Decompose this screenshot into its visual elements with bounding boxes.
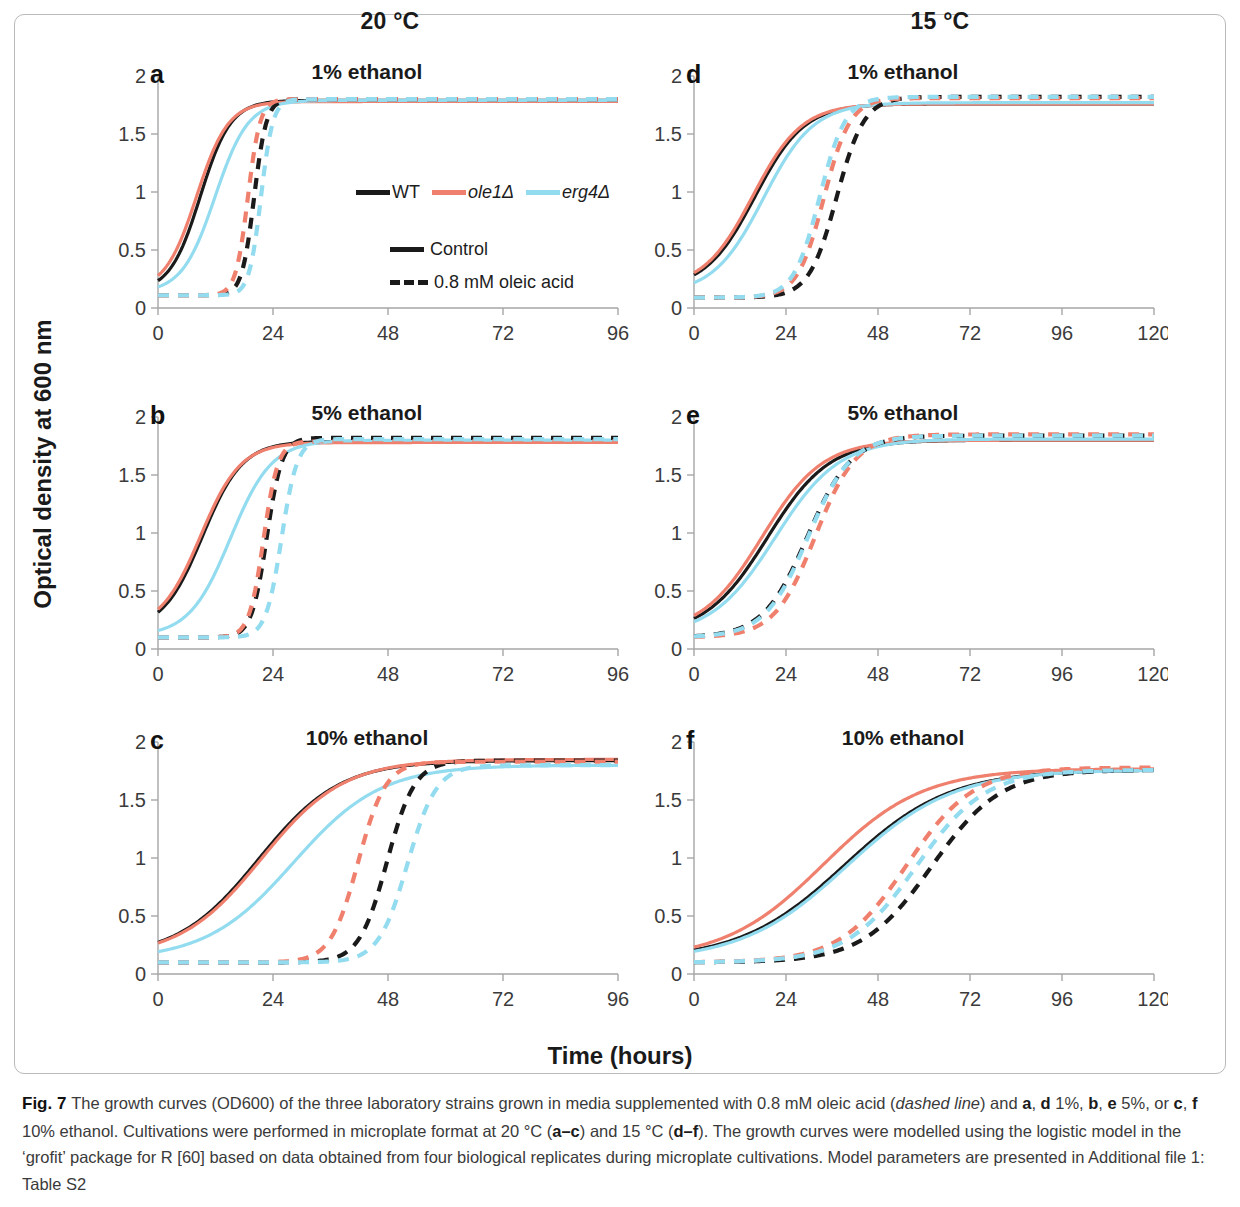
legend-line-swatch — [432, 190, 466, 195]
y-tick-label: 0 — [135, 638, 146, 660]
curve-b-wt-control — [158, 441, 618, 612]
x-tick-label: 48 — [867, 663, 889, 685]
panel-c-plot: 00.511.52024487296 — [112, 718, 632, 1038]
panel-letter-b: b — [150, 401, 165, 430]
curve-f-erg4-0-8-mm-oleic-acid — [694, 770, 1154, 962]
caption-text-run: b — [1088, 1094, 1098, 1112]
chart-legend: WTole1Δerg4Δ Control0.8 mM oleic acid — [356, 182, 656, 312]
caption-text-run: The growth curves (OD600) of the three l… — [71, 1094, 895, 1112]
y-tick-label: 1 — [671, 847, 682, 869]
x-tick-label: 96 — [607, 663, 629, 685]
legend-line-swatch — [356, 190, 390, 195]
curve-f-wt-0-8-mm-oleic-acid — [694, 770, 1154, 962]
dashed-line-swatch — [390, 280, 428, 285]
y-tick-label: 1.5 — [654, 123, 682, 145]
legend-item-ole1: ole1Δ — [432, 182, 514, 203]
panel-letter-d: d — [686, 60, 701, 89]
x-tick-label: 120 — [1137, 663, 1168, 685]
curve-b-ole1-control — [158, 443, 618, 610]
y-tick-label: 1.5 — [118, 123, 146, 145]
curve-e-wt-control — [694, 440, 1154, 618]
x-tick-label: 96 — [607, 988, 629, 1010]
y-tick-label: 0 — [671, 638, 682, 660]
curve-d-erg4-control — [694, 103, 1154, 283]
x-tick-label: 48 — [377, 322, 399, 344]
panel-d: 00.511.52024487296120d1% ethanol — [648, 52, 1168, 372]
x-axis-title: Time (hours) — [0, 1042, 1240, 1070]
caption-text-run: 10% ethanol. Cultivations were performed… — [22, 1122, 552, 1140]
panel-letter-c: c — [150, 726, 164, 755]
x-tick-label: 96 — [1051, 988, 1073, 1010]
legend-style-solid: Control — [390, 239, 656, 260]
y-tick-label: 2 — [671, 65, 682, 87]
caption-text-run: a–c — [552, 1122, 580, 1140]
x-tick-label: 48 — [377, 988, 399, 1010]
axis-lines — [694, 76, 1154, 308]
caption-text-run: f — [1192, 1094, 1198, 1112]
x-tick-label: 24 — [262, 663, 284, 685]
curve-f-ole1-0-8-mm-oleic-acid — [694, 768, 1154, 962]
y-tick-label: 1 — [671, 522, 682, 544]
panel-b: 00.511.52024487296b5% ethanol — [112, 393, 632, 713]
legend-line-swatch — [526, 190, 560, 195]
y-tick-label: 0.5 — [118, 905, 146, 927]
y-tick-label: 0.5 — [118, 239, 146, 261]
panel-title-d: 1% ethanol — [738, 60, 1068, 84]
y-tick-label: 1.5 — [654, 789, 682, 811]
y-tick-label: 0 — [671, 297, 682, 319]
caption-text-run: 5%, or — [1117, 1094, 1174, 1112]
x-tick-label: 72 — [959, 988, 981, 1010]
y-tick-label: 1.5 — [118, 464, 146, 486]
column-heading-20c: 20 °C — [210, 8, 570, 35]
y-tick-label: 0 — [135, 963, 146, 985]
panel-d-plot: 00.511.52024487296120 — [648, 52, 1168, 372]
x-tick-label: 24 — [262, 322, 284, 344]
caption-text-run: dashed line — [896, 1094, 980, 1112]
column-heading-15c: 15 °C — [760, 8, 1120, 35]
caption-figure-number: Fig. 7 — [22, 1094, 71, 1113]
curve-c-wt-0-8-mm-oleic-acid — [158, 761, 618, 963]
y-tick-label: 1.5 — [118, 789, 146, 811]
x-tick-label: 72 — [492, 322, 514, 344]
panel-title-c: 10% ethanol — [202, 726, 532, 750]
caption-text-run: 1%, — [1051, 1094, 1089, 1112]
curve-b-erg4-control — [158, 440, 618, 630]
curve-e-erg4-control — [694, 439, 1154, 622]
curve-e-ole1-control — [694, 440, 1154, 615]
y-tick-label: 2 — [135, 731, 146, 753]
y-tick-label: 1 — [671, 181, 682, 203]
figure-caption: Fig. 7 The growth curves (OD600) of the … — [22, 1090, 1212, 1198]
panel-f-plot: 00.511.52024487296120 — [648, 718, 1168, 1038]
y-tick-label: 0.5 — [654, 239, 682, 261]
caption-text-run: c — [1174, 1094, 1183, 1112]
x-tick-label: 72 — [959, 663, 981, 685]
legend-style-dashed: 0.8 mM oleic acid — [390, 272, 656, 293]
curve-b-ole1-0-8-mm-oleic-acid — [158, 441, 618, 637]
legend-style-label: Control — [430, 239, 488, 260]
x-tick-label: 48 — [377, 663, 399, 685]
x-tick-label: 0 — [688, 322, 699, 344]
x-tick-label: 48 — [867, 322, 889, 344]
x-tick-label: 120 — [1137, 988, 1168, 1010]
panel-letter-f: f — [686, 726, 694, 755]
x-tick-label: 72 — [959, 322, 981, 344]
panel-e: 00.511.52024487296120e5% ethanol — [648, 393, 1168, 713]
legend-label: ole1Δ — [468, 182, 514, 203]
x-tick-label: 96 — [607, 322, 629, 344]
legend-strain-row: WTole1Δerg4Δ — [356, 182, 656, 203]
panel-letter-e: e — [686, 401, 700, 430]
panel-title-f: 10% ethanol — [738, 726, 1068, 750]
x-tick-label: 24 — [775, 988, 797, 1010]
y-tick-label: 0 — [671, 963, 682, 985]
caption-text-run: ) and — [980, 1094, 1022, 1112]
panel-e-plot: 00.511.52024487296120 — [648, 393, 1168, 713]
y-tick-label: 1 — [135, 522, 146, 544]
legend-label: erg4Δ — [562, 182, 610, 203]
panel-title-b: 5% ethanol — [202, 401, 532, 425]
caption-text-run: ) and 15 °C ( — [580, 1122, 674, 1140]
legend-style-rows: Control0.8 mM oleic acid — [356, 239, 656, 293]
legend-item-wt: WT — [356, 182, 420, 203]
x-tick-label: 0 — [152, 988, 163, 1010]
legend-style-label: 0.8 mM oleic acid — [434, 272, 574, 293]
curve-f-wt-control — [694, 770, 1154, 950]
